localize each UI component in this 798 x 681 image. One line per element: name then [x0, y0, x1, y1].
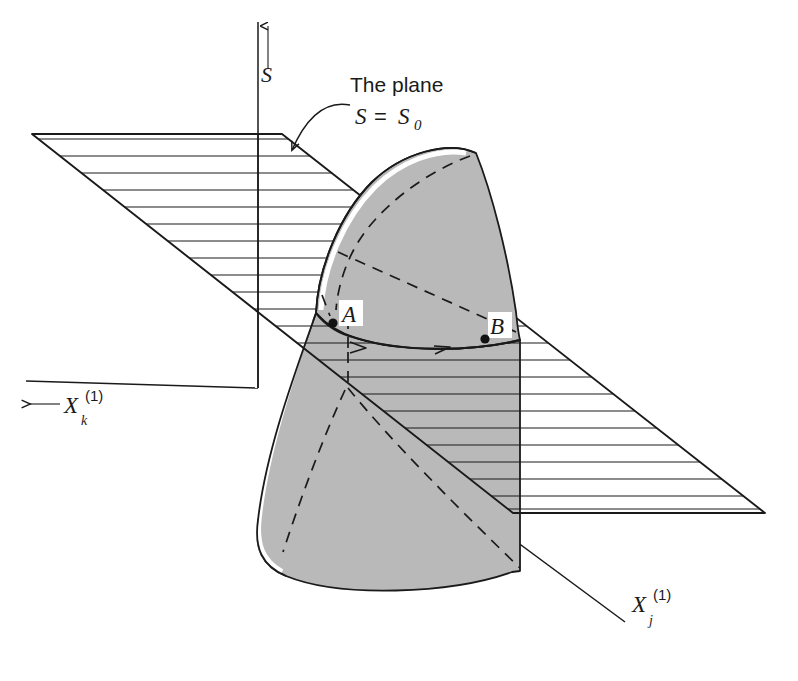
xj-axis-label-base: X: [631, 592, 647, 617]
plane-annotation-leader-arrow: [292, 104, 350, 150]
xj-axis-label-sup: (1): [653, 586, 671, 603]
point-a-marker: [328, 318, 337, 327]
plane-annotation: The plane S = S 0: [292, 73, 443, 150]
xk-axis-label-sub: k: [81, 413, 88, 428]
figure-root: S X k (1) X j (1): [0, 0, 798, 681]
diagram-canvas: S X k (1) X j (1): [0, 0, 798, 681]
axis-xk: X k (1): [26, 381, 258, 428]
point-b-marker: [480, 334, 489, 343]
plane-annotation-rhs-subscript: 0: [414, 117, 422, 133]
xj-axis-label-sub: j: [647, 613, 653, 628]
point-a-label: A: [340, 302, 357, 327]
point-b-label: B: [490, 314, 504, 339]
s-axis-label: S: [261, 62, 272, 87]
plane-annotation-equals: =: [374, 104, 387, 129]
plane-annotation-rhs: S: [398, 104, 410, 129]
xk-axis-line: [26, 381, 258, 388]
xk-axis-label-sup: (1): [85, 387, 103, 404]
plane-annotation-line1: The plane: [350, 73, 443, 96]
xk-axis-label-base: X: [63, 393, 79, 418]
plane-annotation-lhs: S: [355, 104, 367, 129]
